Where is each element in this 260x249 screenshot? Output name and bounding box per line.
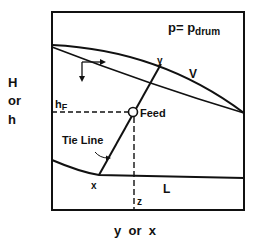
vapor-point-label: y	[157, 55, 163, 66]
liquid-point-label: x	[91, 180, 97, 191]
flash-diagram: p= pdrum H or h hF Feed y V Tie Line x L…	[0, 0, 260, 249]
tie-line-label: Tie Line	[62, 134, 103, 146]
feed-enthalpy-label: hF	[55, 98, 68, 112]
pressure-label: p= pdrum	[168, 20, 220, 37]
feed-composition-label: z	[137, 196, 142, 207]
y-axis-label-line2: or	[8, 93, 21, 108]
liquid-curve	[52, 160, 244, 178]
y-axis-label-line3: h	[8, 112, 16, 127]
direction-arrows-icon	[79, 59, 106, 82]
feed-point-icon	[129, 108, 138, 117]
liquid-curve-label: L	[163, 182, 170, 196]
x-axis-label: y or x	[114, 223, 157, 238]
y-axis-label-line1: H	[8, 75, 17, 90]
vapor-curve-label: V	[189, 67, 197, 81]
lower-boundary-curve	[52, 47, 244, 113]
feed-label: Feed	[140, 107, 166, 119]
